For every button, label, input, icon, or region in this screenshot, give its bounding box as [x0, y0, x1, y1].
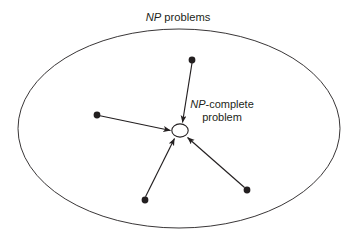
np-complete-label-np: NP	[190, 98, 206, 110]
reduction-arrow-from-bottom-right	[188, 138, 245, 188]
diagram-title-np: NP	[146, 11, 162, 23]
np-complete-diagram: NP problems NP-complete problem	[0, 0, 357, 240]
problem-node-bottom-right	[244, 187, 251, 194]
reduction-arrow-from-left	[100, 116, 171, 131]
np-complete-label-line1: NP-complete	[190, 98, 254, 110]
reduction-arrow-from-top	[183, 63, 193, 123]
np-complete-node	[172, 124, 188, 137]
reduction-arrow-from-bottom-left	[146, 139, 175, 197]
np-complete-label-line2: problem	[202, 111, 242, 123]
diagram-title: NP problems	[146, 11, 211, 23]
np-complete-label-suffix: -complete	[205, 98, 253, 110]
problem-node-left	[94, 112, 101, 119]
diagram-title-rest: problems	[161, 11, 211, 23]
figure-root: NP problems NP-complete problem	[0, 0, 357, 240]
problem-node-top	[189, 57, 196, 64]
problem-node-bottom-left	[142, 197, 149, 204]
